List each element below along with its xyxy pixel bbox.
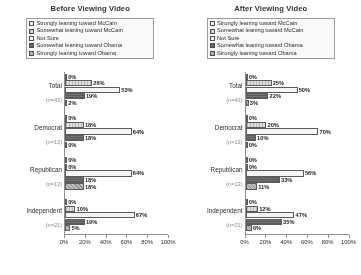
bar-value-label: 20% bbox=[267, 122, 278, 128]
bar-group: Democrat(n=13)0%20%70%10%0% bbox=[246, 114, 349, 151]
bar-stack: 0%20%70%10%0% bbox=[246, 115, 349, 148]
bar-value-label: 25% bbox=[273, 80, 284, 86]
bar-somewhat-obama bbox=[65, 177, 84, 183]
bar-not-sure bbox=[246, 212, 295, 218]
x-axis-tick bbox=[349, 235, 350, 238]
group-sample-size-label: (n=43) bbox=[186, 97, 246, 103]
legend-item: Strongly leaning toward Obama bbox=[29, 50, 151, 57]
bar-value-label: 0% bbox=[249, 142, 257, 148]
bar-row: 35% bbox=[246, 219, 349, 225]
bar-value-label: 6% bbox=[253, 225, 261, 231]
bar-value-label: 47% bbox=[296, 212, 307, 218]
x-axis-tick-label: 100% bbox=[341, 239, 356, 245]
legend-swatch-strongly-mccain-icon bbox=[29, 21, 34, 26]
bar-value-label: 50% bbox=[299, 87, 310, 93]
legend-swatch-somewhat-obama-icon bbox=[29, 43, 34, 48]
bar-somewhat-mccain bbox=[65, 122, 84, 128]
bar-value-label: 0% bbox=[249, 199, 257, 205]
bar-row: 0% bbox=[65, 164, 168, 170]
bar-value-label: 0% bbox=[249, 164, 257, 170]
bar-somewhat-mccain bbox=[246, 80, 272, 86]
bar-row: 0% bbox=[65, 199, 168, 205]
bar-strongly-obama bbox=[246, 100, 249, 106]
bar-row: 0% bbox=[246, 115, 349, 121]
bar-strongly-mccain bbox=[246, 157, 248, 163]
bar-value-label: 64% bbox=[133, 129, 144, 135]
group-list: Total(n=43)0%25%50%22%3%Democrat(n=13)0%… bbox=[246, 72, 349, 234]
bar-row: 33% bbox=[246, 177, 349, 183]
bar-row: 0% bbox=[246, 74, 349, 80]
bar-strongly-obama bbox=[246, 183, 257, 189]
bar-value-label: 5% bbox=[71, 225, 79, 231]
bar-group: Democrat(n=13)0%18%64%18%0% bbox=[65, 114, 168, 151]
x-axis-tick bbox=[64, 235, 65, 238]
legend-swatch-somewhat-mccain-icon bbox=[29, 29, 34, 34]
bar-row: 67% bbox=[65, 212, 168, 218]
x-axis-tick-label: 40% bbox=[100, 239, 112, 245]
bar-stack: 0%0%56%33%11% bbox=[246, 157, 349, 190]
bar-row: 18% bbox=[65, 135, 168, 141]
bar-row: 19% bbox=[65, 219, 168, 225]
x-axis-tick-label: 0% bbox=[240, 239, 249, 245]
bar-somewhat-obama bbox=[65, 219, 85, 225]
bars-region: Total(n=43)0%25%50%22%3%Democrat(n=13)0%… bbox=[245, 72, 349, 234]
bar-not-sure bbox=[65, 87, 120, 93]
bar-group: Total(n=43)0%26%53%19%2% bbox=[65, 72, 168, 109]
legend-item: Somewhat leaning toward Obama bbox=[29, 42, 151, 49]
bar-stack: 0%26%53%19%2% bbox=[65, 74, 168, 107]
bar-row: 53% bbox=[65, 87, 168, 93]
bar-value-label: 2% bbox=[68, 100, 76, 106]
group-category-label: Democrat bbox=[5, 124, 65, 131]
x-axis-tick bbox=[245, 235, 246, 238]
x-axis-tick-label: 80% bbox=[322, 239, 334, 245]
bar-row: 50% bbox=[246, 87, 349, 93]
x-axis-tick-label: 20% bbox=[259, 239, 271, 245]
bar-somewhat-obama bbox=[65, 93, 85, 99]
bar-row: 0% bbox=[246, 164, 349, 170]
bar-value-label: 26% bbox=[93, 80, 104, 86]
x-axis-tick-label: 60% bbox=[120, 239, 132, 245]
bar-somewhat-obama bbox=[246, 135, 256, 141]
bar-strongly-mccain bbox=[246, 199, 248, 205]
bar-value-label: 64% bbox=[133, 170, 144, 176]
plot-area-after: Total(n=43)0%25%50%22%3%Democrat(n=13)0%… bbox=[181, 72, 361, 275]
legend-item-label: Not Sure bbox=[37, 35, 59, 42]
group-category-label: Republican bbox=[5, 166, 65, 173]
bar-group: Independent(n=21)0%12%47%35%6% bbox=[246, 197, 349, 234]
legend-item: Somewhat leaning toward McCain bbox=[210, 27, 332, 34]
bar-not-sure bbox=[246, 170, 304, 176]
bar-strongly-obama bbox=[246, 225, 252, 231]
bar-strongly-obama bbox=[65, 100, 67, 106]
bar-row: 3% bbox=[246, 100, 349, 106]
panel-before: Before Viewing Video Strongly leaning to… bbox=[0, 0, 181, 275]
legend-swatch-not-sure-icon bbox=[210, 36, 215, 41]
x-axis-labels: 0%20%40%60%80%100% bbox=[245, 239, 349, 249]
bar-value-label: 18% bbox=[85, 177, 96, 183]
bar-somewhat-obama bbox=[246, 93, 269, 99]
bar-row: 0% bbox=[65, 142, 168, 148]
bar-value-label: 35% bbox=[283, 219, 294, 225]
group-sample-size-label: (n=13) bbox=[186, 139, 246, 145]
bar-row: 18% bbox=[65, 177, 168, 183]
bar-row: 25% bbox=[246, 80, 349, 86]
bar-row: 22% bbox=[246, 93, 349, 99]
bar-row: 2% bbox=[65, 100, 168, 106]
bar-somewhat-mccain bbox=[65, 206, 75, 212]
bar-value-label: 0% bbox=[68, 164, 76, 170]
bar-not-sure bbox=[65, 212, 135, 218]
group-sample-size-label: (n=21) bbox=[186, 222, 246, 228]
legend-item-label: Somewhat leaning toward McCain bbox=[37, 27, 123, 34]
bar-group: Total(n=43)0%25%50%22%3% bbox=[246, 72, 349, 109]
bar-not-sure bbox=[65, 128, 132, 134]
bar-row: 26% bbox=[65, 80, 168, 86]
legend-item: Somewhat leaning toward McCain bbox=[29, 27, 151, 34]
legend: Strongly leaning toward McCain Somewhat … bbox=[26, 18, 154, 59]
bar-row: 0% bbox=[65, 74, 168, 80]
bar-row: 64% bbox=[65, 128, 168, 134]
bar-value-label: 19% bbox=[86, 219, 97, 225]
bar-somewhat-obama bbox=[65, 135, 84, 141]
group-category-label: Republican bbox=[186, 166, 246, 173]
group-list: Total(n=43)0%26%53%19%2%Democrat(n=13)0%… bbox=[65, 72, 168, 234]
bar-value-label: 0% bbox=[249, 74, 257, 80]
plot-area-before: Total(n=43)0%26%53%19%2%Democrat(n=13)0%… bbox=[0, 72, 181, 275]
